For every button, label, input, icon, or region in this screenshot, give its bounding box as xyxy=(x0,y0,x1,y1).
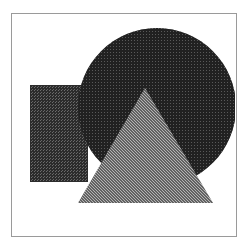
figure-container: A white framed panel containing three ov… xyxy=(0,0,247,246)
shapes-figure-canvas xyxy=(0,0,247,246)
